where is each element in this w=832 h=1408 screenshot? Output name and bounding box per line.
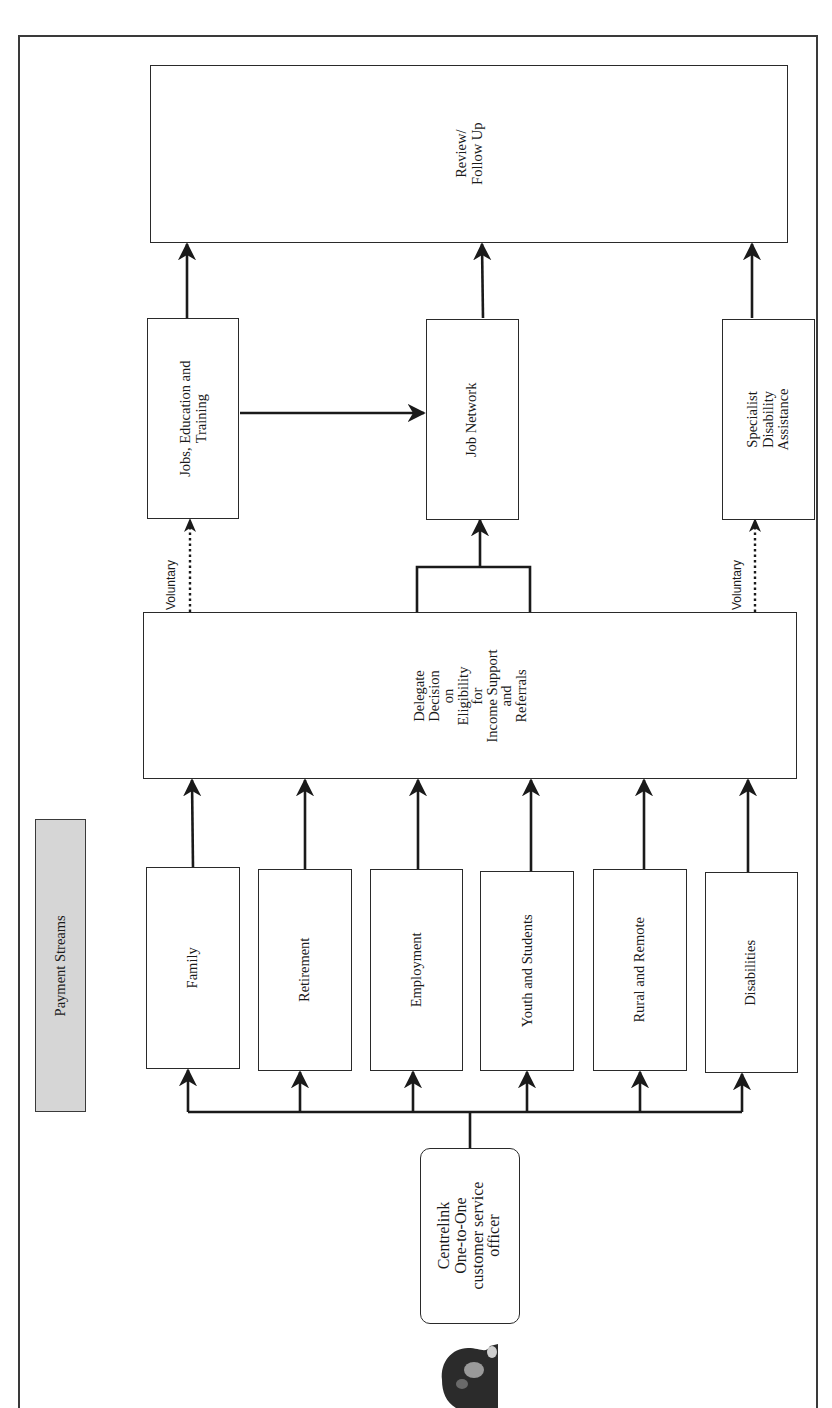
stream-label: Rural and Remote: [632, 917, 648, 1023]
stream-label: Family: [185, 947, 201, 988]
delegate-decision-box: Delegate Decision on Eligibility for Inc…: [143, 612, 797, 779]
stream-label: Disabilities: [744, 939, 760, 1005]
review-follow-up-box: Review/ Follow Up: [150, 65, 788, 243]
delegate-label-line: and: [499, 649, 514, 742]
sda-label-line: Specialist: [745, 388, 761, 450]
stream-label: Youth and Students: [519, 915, 535, 1028]
delegate-label-line: on: [441, 649, 456, 742]
review-label-line: Review/: [453, 123, 469, 185]
stream-label: Employment: [409, 933, 425, 1008]
specialist-disability-assistance-box: Specialist Disability Assistance: [722, 319, 815, 520]
job-network-box: Job Network: [426, 319, 519, 520]
customer-service-officer-box: Centrelink One-to-One customer service o…: [420, 1148, 520, 1324]
job-network-label: Job Network: [465, 382, 481, 457]
jet-label-line: Training: [193, 360, 209, 476]
officer-label-line: Centrelink: [436, 1182, 453, 1290]
stream-label: Retirement: [297, 938, 313, 1002]
delegate-label-line: Referrals: [514, 649, 529, 742]
officer-label-line: customer service: [470, 1182, 487, 1290]
officer-label-line: One-to-One: [453, 1182, 470, 1290]
sda-label-line: Assistance: [776, 388, 792, 450]
review-label-line: Follow Up: [469, 123, 485, 185]
voluntary-label-right: Voluntary: [730, 560, 744, 610]
payment-streams-label: Payment Streams: [53, 915, 69, 1016]
delegate-label-line: for: [470, 649, 485, 742]
stream-box-family: Family: [146, 867, 240, 1069]
voluntary-label-left: Voluntary: [164, 560, 178, 610]
jobs-education-training-box: Jobs, Education and Training: [147, 318, 239, 519]
stream-box-retirement: Retirement: [258, 869, 352, 1071]
stream-box-rural-remote: Rural and Remote: [593, 869, 687, 1071]
payment-streams-label-box: Payment Streams: [35, 819, 86, 1112]
jet-label-line: Jobs, Education and: [177, 360, 193, 476]
delegate-label-line: Delegate: [412, 649, 427, 742]
stream-box-disabilities: Disabilities: [705, 872, 798, 1073]
officer-photo-icon: [434, 1340, 506, 1408]
stream-box-youth-students: Youth and Students: [480, 871, 574, 1071]
officer-label-line: officer: [487, 1182, 504, 1290]
stream-box-employment: Employment: [370, 869, 463, 1071]
